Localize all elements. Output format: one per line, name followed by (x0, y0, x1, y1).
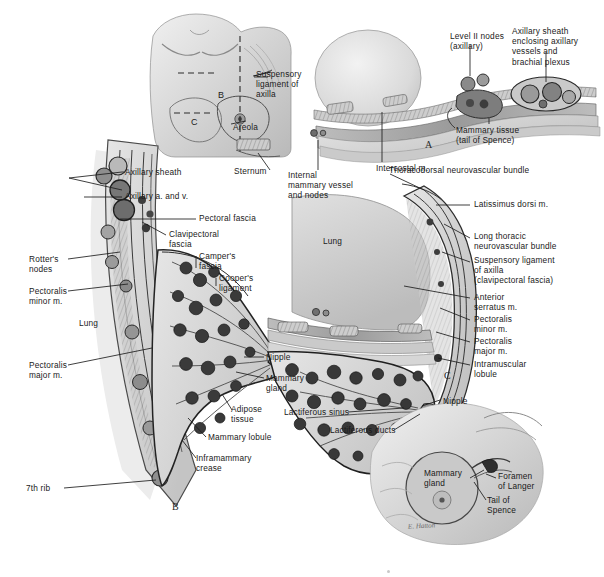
page-mark (387, 570, 390, 573)
label-lactiferous-sinus: Lactiferous sinus (284, 407, 349, 417)
label-clavipectoral-fascia: Clavipectoral fascia (169, 229, 219, 249)
label-latissimus-dorsi-m: Latissimus dorsi m. (474, 199, 548, 209)
label-pectoralis-major-m-c: Pectoralis major m. (474, 336, 512, 356)
section-marker-c: C (191, 117, 198, 127)
label-pectoralis-major-m: Pectoralis major m. (29, 360, 67, 380)
label-internal-mammary-vessel-and-nodes: Internal mammary vessel and nodes (288, 170, 353, 201)
label-mammary-lobule: Mammary lobule (208, 432, 272, 442)
label-nipple-b: Nipple (266, 352, 291, 362)
label-axillary-a-and-v: Axillary a. and v. (125, 191, 188, 201)
label-seventh-rib: 7th rib (26, 483, 50, 493)
label-axillary-sheath: Axillary sheath (125, 167, 181, 177)
panel-letter-b: B (172, 501, 179, 512)
panel-letter-a: A (425, 139, 432, 150)
label-anterior-serratus-m: Anterior serratus m. (474, 292, 517, 312)
section-marker-b: B (218, 90, 224, 100)
panel-b-art (91, 140, 290, 506)
label-axillary-sheath-enclosing: Axillary sheath enclosing axillary vesse… (512, 26, 578, 67)
label-pectoralis-minor-m: Pectoralis minor m. (29, 286, 67, 306)
panel-letter-c: C (444, 370, 451, 381)
label-mammary-tissue-tail-of-spence: Mammary tissue (tail of Spence) (456, 125, 519, 145)
label-pectoral-fascia: Pectoral fascia (199, 213, 256, 223)
label-lung-b: Lung (79, 318, 98, 328)
label-intramuscular-lobule: Intramuscular lobule (474, 359, 526, 379)
label-adipose-tissue: Adipose tissue (231, 404, 262, 424)
label-sternum: Sternum (234, 166, 267, 176)
label-thoracodorsal-neurovascular-bundle: Thoracodorsal neurovascular bundle (389, 165, 529, 175)
artist-signature: E. Hatton (408, 521, 436, 530)
label-nipple-c: Nipple (443, 396, 468, 406)
label-lactiferous-ducts: Lactiferous ducts (330, 425, 396, 435)
label-suspensory-ligament-of-axilla-c: Suspensory ligament of axilla (clavipect… (474, 255, 555, 286)
label-areola: Areola (233, 122, 258, 132)
label-tail-of-spence: Tail of Spence (487, 495, 516, 515)
label-mammary-gland-inset: Mammary gland (424, 468, 462, 488)
label-long-thoracic-neurovascular-bundle: Long thoracic neurovascular bundle (474, 231, 557, 251)
figure-canvas: Suspensory ligament of axilla Areola Lev… (0, 0, 604, 577)
label-rotters-nodes: Rotter's nodes (29, 254, 59, 274)
label-foramen-of-langer: Foramen of Langer (498, 471, 535, 491)
label-lung-c: Lung (323, 236, 342, 246)
label-mammary-gland-b: Mammary gland (266, 373, 304, 393)
label-suspensory-ligament-of-axilla: Suspensory ligament of axilla (256, 69, 301, 100)
label-inframammary-crease: Inframammary crease (196, 453, 251, 473)
label-level-ii-nodes: Level II nodes (axillary) (450, 31, 504, 51)
label-pectoralis-minor-m-c: Pectoralis minor m. (474, 314, 512, 334)
label-campers-fascia: Camper's fascia (199, 251, 236, 271)
label-coopers-ligament: Cooper's ligament (219, 273, 253, 293)
